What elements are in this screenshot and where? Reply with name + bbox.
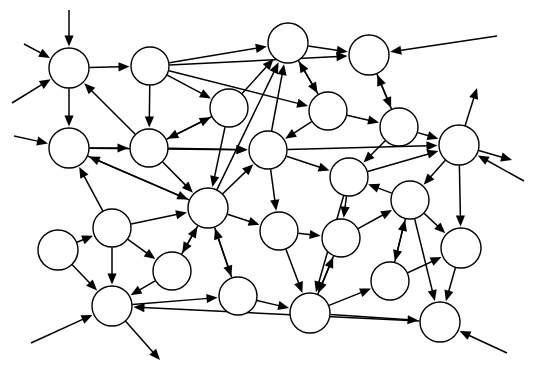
edge-arrowhead-n20-n14 xyxy=(188,227,197,239)
graph-node-n24[interactable] xyxy=(290,293,330,333)
edge-n23-n24 xyxy=(257,300,280,305)
external-out-edge-6 xyxy=(465,97,474,125)
node-circle-n18[interactable] xyxy=(38,230,78,270)
node-circle-n11[interactable] xyxy=(249,131,287,169)
graph-node-n17[interactable] xyxy=(441,228,481,268)
edge-n1-n2 xyxy=(89,67,120,68)
edge-arrowhead-n8-n17 xyxy=(456,215,465,226)
external-in-edge-4 xyxy=(31,319,84,343)
edge-arrowhead-n2-n3 xyxy=(255,44,267,53)
graph-node-n16[interactable] xyxy=(322,219,360,257)
edge-arrowhead-n18-n19 xyxy=(81,236,93,245)
edge-n11-n12 xyxy=(286,156,320,167)
edge-arrowhead-n6-n3 xyxy=(299,62,309,74)
node-circle-n7[interactable] xyxy=(380,108,418,146)
edge-arrowhead-n14-n15 xyxy=(248,217,260,226)
graph-node-n18[interactable] xyxy=(38,230,78,270)
graph-node-n3[interactable] xyxy=(268,23,308,63)
edge-arrowhead-n2-n10 xyxy=(145,116,154,127)
graph-node-n22[interactable] xyxy=(92,286,132,326)
node-circle-n8[interactable] xyxy=(439,125,479,165)
edge-n5-n3 xyxy=(242,66,267,94)
node-circle-n19[interactable] xyxy=(93,209,131,247)
edge-arrowhead-n13-n12 xyxy=(368,184,380,193)
edge-arrowhead-n5-n14 xyxy=(210,175,219,187)
node-circle-n17[interactable] xyxy=(441,228,481,268)
edge-n15-n24 xyxy=(286,249,299,284)
graph-node-n7[interactable] xyxy=(380,108,418,146)
edge-n12-n16 xyxy=(345,196,347,208)
edge-n8-n13 xyxy=(430,160,445,177)
node-circle-n25[interactable] xyxy=(420,302,460,342)
graph-node-n23[interactable] xyxy=(219,277,257,315)
edge-arrowhead-n3-n4 xyxy=(336,46,348,55)
node-circle-n2[interactable] xyxy=(131,47,169,85)
node-circle-n1[interactable] xyxy=(49,48,89,88)
edge-arrowhead-n24-n21 xyxy=(359,288,371,297)
graph-node-n21[interactable] xyxy=(371,262,409,300)
graph-node-n8[interactable] xyxy=(439,125,479,165)
edge-n10-n14 xyxy=(163,162,187,186)
external-in-edge-2 xyxy=(12,84,43,103)
node-circle-n21[interactable] xyxy=(371,262,409,300)
graph-node-n9[interactable] xyxy=(49,128,89,168)
graph-node-n14[interactable] xyxy=(188,188,228,228)
external-out-edge-5 xyxy=(126,321,154,353)
edge-arrowhead-n22-n23 xyxy=(206,294,217,303)
node-circle-n12[interactable] xyxy=(330,158,368,196)
node-circle-n23[interactable] xyxy=(219,277,257,315)
edge-arrowhead-n17-n25 xyxy=(444,289,453,301)
node-circle-n9[interactable] xyxy=(49,128,89,168)
node-circle-n10[interactable] xyxy=(130,129,168,167)
edge-n13-n17 xyxy=(424,213,438,226)
node-circle-n13[interactable] xyxy=(391,181,429,219)
node-circle-n3[interactable] xyxy=(268,23,308,63)
edge-n7-n4 xyxy=(381,84,392,109)
edge-n19-n14 xyxy=(131,214,178,224)
graph-node-n1[interactable] xyxy=(49,48,89,88)
graph-node-n4[interactable] xyxy=(349,35,389,75)
graph-node-n2[interactable] xyxy=(131,47,169,85)
graph-node-n10[interactable] xyxy=(130,129,168,167)
graph-node-n12[interactable] xyxy=(330,158,368,196)
edge-arrowhead-n11-n15 xyxy=(270,199,279,211)
graph-node-n6[interactable] xyxy=(309,92,347,130)
edge-arrowhead-n19-n22 xyxy=(107,274,116,285)
edge-n19-n9 xyxy=(84,175,103,211)
edge-n11-n3 xyxy=(272,73,283,130)
edge-n5-n10 xyxy=(176,117,212,135)
node-circle-n14[interactable] xyxy=(188,188,228,228)
node-circle-n15[interactable] xyxy=(260,212,298,250)
node-circle-n6[interactable] xyxy=(309,92,347,130)
node-circle-n16[interactable] xyxy=(322,219,360,257)
graph-node-n19[interactable] xyxy=(93,209,131,247)
edge-n24-n21 xyxy=(329,292,362,305)
edge-arrowhead-n16-n13 xyxy=(380,210,392,219)
edge-n3-n4 xyxy=(308,46,338,50)
graph-node-n15[interactable] xyxy=(260,212,298,250)
graph-node-n11[interactable] xyxy=(249,131,287,169)
node-circle-n4[interactable] xyxy=(349,35,389,75)
node-circle-n5[interactable] xyxy=(210,89,248,127)
node-circle-n22[interactable] xyxy=(92,286,132,326)
node-circle-n20[interactable] xyxy=(153,252,191,290)
graph-node-n20[interactable] xyxy=(153,252,191,290)
edge-arrowhead-n2-n6 xyxy=(296,99,308,108)
edge-arrowhead-n23-n24 xyxy=(277,301,289,310)
edge-arrowhead-n12-n16 xyxy=(341,206,350,218)
edge-n11-n15 xyxy=(271,169,275,201)
graph-node-n13[interactable] xyxy=(391,181,429,219)
edge-n10-n1 xyxy=(91,90,135,134)
edge-arrowhead-n23-n14 xyxy=(214,228,223,240)
node-circle-n24[interactable] xyxy=(290,293,330,333)
external-in-edge-1 xyxy=(24,44,42,53)
edge-n6-n11 xyxy=(293,122,311,134)
external-in-arrowhead-3 xyxy=(36,137,48,146)
graph-node-n25[interactable] xyxy=(420,302,460,342)
graph-node-n5[interactable] xyxy=(210,89,248,127)
edge-n16-n24 xyxy=(322,256,334,284)
edge-arrowhead-n11-n8 xyxy=(426,141,437,150)
edge-arrowhead-n20-n22 xyxy=(131,286,143,296)
edge-n21-n17 xyxy=(408,261,433,273)
edge-n15-n16 xyxy=(298,233,311,234)
